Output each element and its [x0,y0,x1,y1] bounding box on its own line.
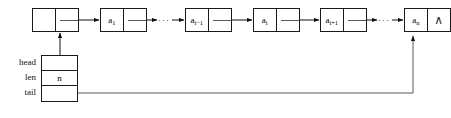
node-ai-plus-1-next-cell [344,9,366,31]
node-ai-data-cell: ai [254,9,277,31]
list-header-block: n [41,55,78,102]
node-ai-1-data-cell: ai−1 [186,9,209,31]
pointer-stub-icon [348,20,366,21]
head-node [32,8,79,32]
node-ai-next-cell [277,9,299,31]
node-an-data-label: an [412,16,419,25]
node-an-next-cell: ∧ [428,9,450,31]
ellipsis-right: ··· [378,16,390,25]
tail-field-label: tail [0,88,36,97]
len-field-row: n [42,71,77,86]
node-ai-1-next-cell [209,9,231,31]
nil-pointer-icon: ∧ [434,14,443,26]
node-ai-1-data-label: ai−1 [190,16,203,25]
node-ai-plus-1-data-cell: ai+1 [321,9,344,31]
node-ai-data-label: ai [262,16,268,25]
head-node-data-cell [33,9,56,31]
pointer-stub-icon [281,20,299,21]
pointer-stub-icon [128,20,146,21]
ellipsis-left: ··· [158,16,170,25]
node-a1-data-cell: a1 [101,9,124,31]
node-a1-next-cell [124,9,146,31]
head-field-label: head [0,58,36,67]
node-an: an ∧ [404,8,451,32]
node-an-data-cell: an [405,9,428,31]
node-a1-data-label: a1 [108,16,115,25]
node-ai-plus-1: ai+1 [320,8,367,32]
len-field-label: len [0,73,36,82]
node-ai-1: ai−1 [185,8,232,32]
link-tail-field-to-an [60,36,413,93]
len-field-value: n [57,73,62,83]
head-field-row [42,56,77,71]
node-ai-plus-1-data-label: ai+1 [325,16,338,25]
node-a1: a1 [100,8,147,32]
head-node-next-cell [56,9,78,31]
pointer-stub-icon [213,20,231,21]
tail-field-row [42,86,77,101]
node-ai: ai [253,8,300,32]
pointer-stub-icon [60,20,78,21]
